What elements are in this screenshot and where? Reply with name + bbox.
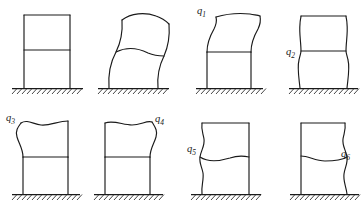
beam-top — [21, 121, 68, 125]
dof-label-q3: q3 — [6, 112, 15, 125]
ground-support — [191, 195, 261, 201]
column-left — [298, 16, 301, 88]
dof-label-q6: q6 — [341, 148, 350, 161]
beam-top — [216, 14, 260, 17]
mode-frame-undeformed — [12, 15, 83, 94]
ground-support — [290, 195, 360, 201]
ground-support — [12, 89, 83, 95]
beam-mid — [116, 49, 164, 56]
mode-frame-swayed — [98, 14, 169, 94]
mode-frame-q4: q4 — [94, 113, 164, 200]
dof-label-q4: q4 — [155, 113, 164, 126]
ground-support — [94, 195, 164, 201]
ground-hatching — [191, 195, 261, 201]
beam-top — [105, 122, 152, 125]
dof-label-q5: q5 — [187, 143, 196, 156]
ground-hatching — [12, 89, 82, 95]
ground-support — [98, 89, 169, 95]
ground-support — [12, 195, 82, 201]
mode-frame-q1: q1 — [196, 5, 266, 94]
column-right-upper — [251, 16, 260, 52]
dof-label-q2: q2 — [286, 46, 295, 59]
mode-frame-q5: q5 — [187, 123, 261, 200]
ground-support — [196, 89, 266, 95]
column-left-upper — [207, 17, 216, 52]
ground-hatching — [12, 195, 82, 201]
ground-hatching — [196, 89, 266, 95]
column-left — [109, 20, 122, 88]
beam-top — [122, 14, 169, 24]
figure-root: q1 q2 — [0, 0, 363, 212]
column-right-upper — [150, 122, 157, 157]
ground-hatching — [289, 89, 359, 95]
column-right — [346, 16, 349, 88]
mode-frame-q3: q3 — [6, 112, 82, 200]
ground-hatching — [98, 89, 168, 95]
mode-frame-q2: q2 — [286, 16, 359, 94]
ground-hatching — [94, 195, 164, 201]
frames-diagram: q1 q2 — [0, 0, 363, 212]
ground-hatching — [290, 195, 360, 201]
dof-label-q1: q1 — [197, 5, 206, 18]
beam-mid — [200, 156, 249, 161]
column-left-upper — [16, 123, 23, 157]
mode-frame-q6: q6 — [290, 123, 360, 200]
ground-support — [289, 89, 359, 95]
